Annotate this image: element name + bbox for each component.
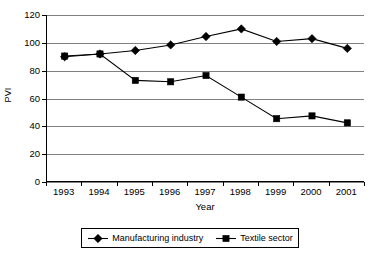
y-tick-label: 60 <box>14 94 40 104</box>
x-tick-mark <box>258 182 259 186</box>
series-2 <box>62 51 351 126</box>
x-tick-label: 1997 <box>188 187 222 197</box>
legend-entry[interactable]: Manufacturing industry <box>87 233 203 243</box>
x-tick-label: 1993 <box>47 187 81 197</box>
data-point-marker <box>203 72 209 78</box>
x-tick-mark <box>152 182 153 186</box>
legend-marker <box>94 234 102 242</box>
chart-legend: Manufacturing industryTextile sector <box>81 228 299 248</box>
x-tick-label: 1999 <box>259 187 293 197</box>
data-point-marker <box>97 51 103 57</box>
data-point-marker <box>168 79 174 85</box>
data-point-marker <box>238 94 244 100</box>
y-tick-label: 40 <box>14 121 40 131</box>
x-tick-mark <box>223 182 224 186</box>
x-tick-label: 2001 <box>329 187 363 197</box>
x-tick-label: 1995 <box>117 187 151 197</box>
data-point-marker <box>132 77 138 83</box>
x-tick-mark <box>329 182 330 186</box>
data-point-marker <box>237 25 245 33</box>
data-point-marker <box>344 120 350 126</box>
series-1 <box>60 25 351 61</box>
x-tick-label: 1996 <box>153 187 187 197</box>
legend-square-marker-icon <box>215 234 237 243</box>
data-point-marker <box>343 44 351 52</box>
x-tick-mark <box>187 182 188 186</box>
data-point-marker <box>274 116 280 122</box>
legend-diamond-marker-icon <box>87 234 109 243</box>
y-tick-label: 80 <box>14 66 40 76</box>
data-point-marker <box>272 37 280 45</box>
gridline <box>47 182 364 183</box>
x-tick-mark <box>46 182 47 186</box>
series-line <box>65 54 348 123</box>
plot-area <box>46 15 364 182</box>
line-chart: PVI 020406080100120 19931994199519961997… <box>0 0 377 260</box>
x-tick-mark <box>117 182 118 186</box>
legend-marker <box>223 235 229 241</box>
x-tick-mark <box>81 182 82 186</box>
y-axis-title-label: PVI <box>3 87 13 102</box>
y-tick-label: 0 <box>14 177 40 187</box>
x-tick-label: 2000 <box>294 187 328 197</box>
data-point-marker <box>62 53 68 59</box>
data-point-marker <box>202 32 210 40</box>
legend-entry[interactable]: Textile sector <box>215 233 293 243</box>
legend-label: Textile sector <box>240 233 293 243</box>
y-tick-label: 100 <box>14 38 40 48</box>
x-axis-title: Year <box>46 201 364 212</box>
legend-label: Manufacturing industry <box>112 233 203 243</box>
series-layer <box>47 15 365 182</box>
data-point-marker <box>166 41 174 49</box>
x-tick-label: 1994 <box>82 187 116 197</box>
x-tick-mark <box>364 182 365 186</box>
x-tick-label: 1998 <box>223 187 257 197</box>
data-point-marker <box>131 46 139 54</box>
y-tick-label: 120 <box>14 10 40 20</box>
x-tick-mark <box>293 182 294 186</box>
y-tick-label: 20 <box>14 149 40 159</box>
data-point-marker <box>308 34 316 42</box>
data-point-marker <box>309 113 315 119</box>
